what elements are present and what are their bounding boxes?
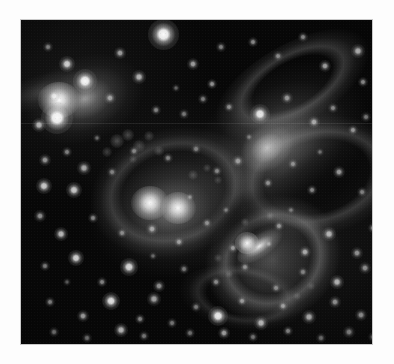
field-star xyxy=(265,240,274,249)
field-star xyxy=(88,213,99,224)
field-star xyxy=(132,70,146,84)
field-star xyxy=(68,250,85,267)
field-star xyxy=(361,112,370,121)
field-star-layer xyxy=(21,20,372,344)
field-star xyxy=(167,318,177,328)
field-star xyxy=(316,148,325,157)
field-star xyxy=(245,133,254,142)
field-star xyxy=(191,302,201,312)
field-star xyxy=(179,264,189,274)
field-star xyxy=(153,280,164,291)
field-star xyxy=(172,84,181,93)
field-star xyxy=(163,153,173,163)
field-star xyxy=(135,314,146,325)
field-star xyxy=(299,246,311,258)
field-star xyxy=(212,166,222,176)
field-star xyxy=(316,333,326,343)
field-star xyxy=(271,283,281,293)
field-star xyxy=(59,56,75,72)
field-star xyxy=(149,252,158,261)
field-star xyxy=(62,147,72,157)
field-star xyxy=(40,261,50,271)
field-star xyxy=(232,155,243,166)
field-star xyxy=(148,20,179,50)
field-star xyxy=(107,167,116,176)
field-star xyxy=(319,60,331,72)
field-star xyxy=(237,296,248,307)
field-star xyxy=(39,154,50,165)
field-star xyxy=(49,327,59,337)
field-star xyxy=(45,297,56,308)
field-star xyxy=(120,258,137,275)
field-star xyxy=(357,187,367,197)
field-star xyxy=(263,178,274,189)
field-star xyxy=(248,332,258,342)
field-star xyxy=(328,103,338,113)
field-star xyxy=(368,223,372,234)
field-star xyxy=(250,104,270,124)
astronomical-image xyxy=(20,19,373,345)
field-star xyxy=(174,237,185,248)
field-star xyxy=(216,42,225,51)
field-star xyxy=(307,185,318,196)
field-star xyxy=(34,210,45,221)
field-star xyxy=(151,105,161,115)
field-star xyxy=(343,326,354,337)
field-star xyxy=(288,159,298,169)
field-star xyxy=(351,44,366,59)
field-star xyxy=(129,146,139,156)
field-star xyxy=(63,278,71,286)
field-star xyxy=(224,102,234,112)
field-star xyxy=(208,306,228,326)
field-star xyxy=(97,277,108,288)
field-star xyxy=(73,69,98,94)
field-star xyxy=(287,206,296,215)
field-star xyxy=(104,92,115,103)
field-star xyxy=(43,42,53,52)
field-star xyxy=(82,333,92,343)
field-star xyxy=(329,296,340,307)
field-star xyxy=(114,323,128,337)
field-star xyxy=(179,109,188,118)
field-star xyxy=(359,262,370,273)
field-star xyxy=(211,277,222,288)
field-star xyxy=(333,166,345,178)
field-star xyxy=(351,247,362,258)
field-star xyxy=(281,92,292,103)
image-alt-text: Grayscale astronomical image of an inter… xyxy=(0,0,1,1)
field-star xyxy=(254,316,268,330)
field-star xyxy=(322,227,336,241)
field-star xyxy=(185,328,195,338)
field-star xyxy=(240,262,250,272)
field-star xyxy=(218,327,230,339)
field-star xyxy=(66,182,82,198)
field-star xyxy=(114,47,125,58)
field-star xyxy=(146,223,157,234)
field-star xyxy=(54,227,69,242)
field-star xyxy=(274,221,285,232)
field-star xyxy=(298,267,308,277)
field-star xyxy=(32,118,46,132)
field-star xyxy=(202,218,212,228)
field-star xyxy=(139,331,149,341)
field-star xyxy=(191,144,200,153)
field-star xyxy=(147,292,160,305)
image-page: Grayscale astronomical image of an inter… xyxy=(0,0,394,364)
sky-background xyxy=(21,20,372,344)
field-star xyxy=(358,77,369,88)
field-star xyxy=(248,37,258,47)
field-star xyxy=(355,309,367,321)
field-star xyxy=(368,332,372,342)
field-star xyxy=(207,79,218,90)
field-star xyxy=(198,94,207,103)
field-star xyxy=(283,326,294,337)
field-star xyxy=(222,206,231,215)
field-star xyxy=(278,301,289,312)
field-star xyxy=(117,228,127,238)
field-star xyxy=(228,243,239,254)
field-star xyxy=(77,310,89,322)
field-star xyxy=(48,90,60,102)
field-star xyxy=(41,102,73,134)
field-star xyxy=(93,134,102,143)
field-star xyxy=(273,51,282,60)
